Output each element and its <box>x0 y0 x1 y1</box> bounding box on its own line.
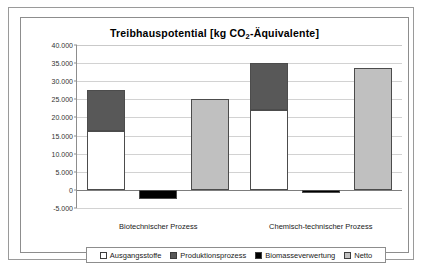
y-axis-tick-label: -5.000 <box>53 205 73 212</box>
y-axis-tick-label: 40.000 <box>52 42 73 49</box>
legend-swatch-icon <box>100 252 107 259</box>
y-axis-tick-label: 35.000 <box>52 60 73 67</box>
bar-segment-netto <box>191 99 229 190</box>
legend-label: Netto <box>354 251 372 260</box>
chart-title-before: Treibhauspotential [kg CO <box>110 27 246 39</box>
chart-legend: AusgangsstoffeProduktionsprozessBiomasse… <box>86 247 386 263</box>
y-axis-tick-label: 5.000 <box>55 168 73 175</box>
y-axis-tick-label: 20.000 <box>52 114 73 121</box>
gridline-40000 <box>77 45 402 46</box>
y-tick-mark <box>74 117 77 118</box>
bar-segment-ausgangsstoffe <box>250 110 288 190</box>
bar-segment-netto <box>354 68 392 190</box>
y-tick-mark <box>74 99 77 100</box>
bar-segment-produktionsprozess <box>250 63 288 110</box>
y-tick-mark <box>74 208 77 209</box>
legend-swatch-icon <box>255 252 262 259</box>
legend-item: Biomasseverwertung <box>255 251 335 260</box>
y-axis-tick-label: 25.000 <box>52 96 73 103</box>
plot-area: 40.00035.00030.00025.00020.00015.00010.0… <box>76 45 402 208</box>
y-axis-tick-label: 30.000 <box>52 78 73 85</box>
chart-frame: Treibhauspotential [kg CO2-Äquivalente] … <box>20 17 409 253</box>
bar-segment-ausgangsstoffe <box>87 131 125 190</box>
y-tick-mark <box>74 153 77 154</box>
y-axis-tick-label: 10.000 <box>52 150 73 157</box>
legend-label: Ausgangsstoffe <box>110 251 162 260</box>
y-tick-mark <box>74 45 77 46</box>
bar-segment-produktionsprozess <box>87 90 125 131</box>
legend-swatch-icon <box>170 252 177 259</box>
x-axis-category-label: Chemisch-technischer Prozess <box>269 222 372 231</box>
chart-title-after: -Äquivalente] <box>250 27 319 39</box>
y-tick-mark <box>74 171 77 172</box>
chart-title-subscript: 2 <box>246 32 250 41</box>
bar-segment-biomasseverwertung <box>139 190 177 199</box>
gridline-35000 <box>77 63 402 64</box>
chart-screenshot: Treibhauspotential [kg CO2-Äquivalente] … <box>0 0 423 268</box>
legend-swatch-icon <box>344 252 351 259</box>
y-tick-mark <box>74 189 77 190</box>
plot-wrapper: 40.00035.00030.00025.00020.00015.00010.0… <box>76 45 402 208</box>
y-axis-tick-label: 0 <box>69 186 73 193</box>
y-axis-tick-label: 15.000 <box>52 132 73 139</box>
y-tick-mark <box>74 81 77 82</box>
legend-label: Produktionsprozess <box>180 251 246 260</box>
legend-item: Produktionsprozess <box>170 251 246 260</box>
legend-item: Ausgangsstoffe <box>100 251 162 260</box>
chart-title: Treibhauspotential [kg CO2-Äquivalente] <box>21 27 408 39</box>
legend-label: Biomasseverwertung <box>265 251 335 260</box>
y-tick-mark <box>74 63 77 64</box>
y-tick-mark <box>74 135 77 136</box>
gridline--5000 <box>77 208 402 209</box>
legend-item: Netto <box>344 251 372 260</box>
gridline-0 <box>77 190 402 191</box>
bar-segment-biomasseverwertung <box>302 190 340 193</box>
x-axis-category-label: Biotechnischer Prozess <box>119 222 197 231</box>
